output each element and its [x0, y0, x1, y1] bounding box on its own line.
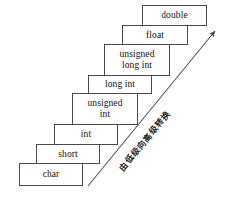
type-box-unsigned-int: unsignedint	[72, 93, 138, 125]
type-box-float: float	[122, 25, 188, 45]
type-box-char: char	[19, 163, 83, 186]
type-box-short: short	[36, 144, 100, 164]
type-box-label: short	[58, 149, 78, 160]
type-box-label-line2: int	[100, 109, 110, 120]
type-box-int: int	[54, 124, 118, 145]
type-box-label: float	[146, 30, 164, 41]
type-box-label: unsigned	[119, 49, 154, 60]
type-box-long-int: long int	[88, 75, 152, 94]
type-box-double: double	[142, 5, 207, 26]
type-box-label: double	[161, 10, 187, 21]
type-box-label: char	[43, 169, 60, 180]
type-box-label-line2: long int	[122, 60, 152, 71]
diagram-canvas: 由低级向高级转换 charshortintunsignedintlong int…	[0, 0, 235, 201]
type-box-label: unsigned	[87, 98, 122, 109]
type-box-label: long int	[105, 79, 135, 90]
type-box-label: int	[81, 129, 91, 140]
type-box-unsigned-long-int: unsignedlong int	[104, 44, 170, 76]
